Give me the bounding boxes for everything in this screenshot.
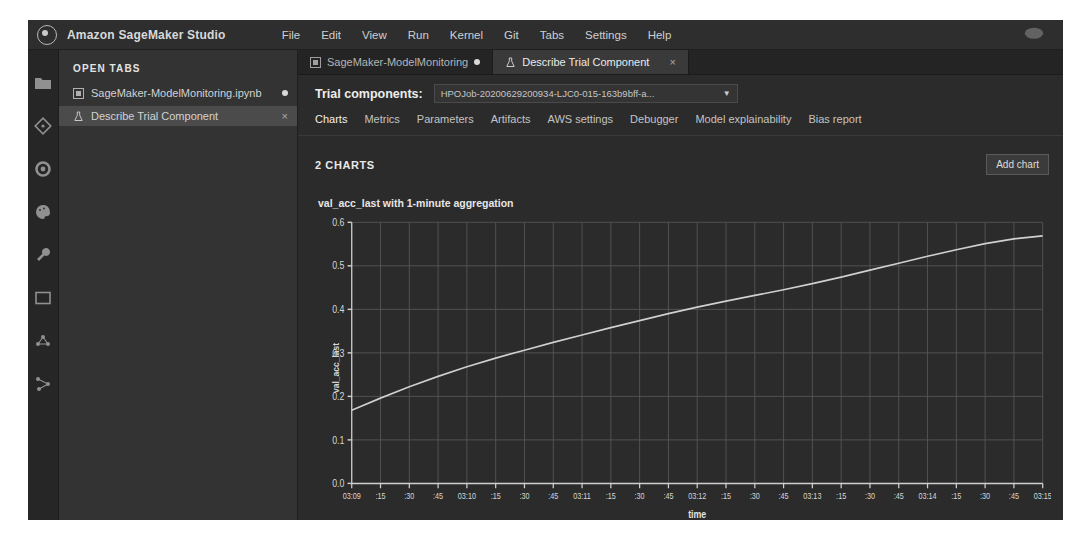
svg-text::15: :15	[375, 492, 386, 502]
chart-y-axis-label: val_acc_last	[331, 342, 341, 392]
tab-model-explainability[interactable]: Model explainability	[695, 113, 791, 129]
svg-text::45: :45	[433, 492, 444, 502]
activity-bar	[28, 50, 59, 520]
menu-item-file[interactable]: File	[282, 29, 301, 41]
svg-text:0.6: 0.6	[332, 216, 344, 228]
flask-icon	[505, 57, 516, 68]
line-chart: 0.00.10.20.30.40.50.603:09:15:30:4503:10…	[304, 215, 1051, 520]
close-icon[interactable]: ×	[669, 56, 675, 68]
menu-item-kernel[interactable]: Kernel	[450, 29, 483, 41]
app-title: Amazon SageMaker Studio	[67, 28, 226, 42]
svg-text::15: :15	[721, 492, 732, 502]
svg-text::15: :15	[836, 492, 847, 502]
svg-text:03:09: 03:09	[343, 492, 362, 502]
flask-icon	[73, 111, 84, 122]
close-icon[interactable]: ×	[282, 110, 288, 122]
svg-text::45: :45	[548, 492, 559, 502]
menu-item-tabs[interactable]: Tabs	[540, 29, 564, 41]
detail-tab-bar: Charts Metrics Parameters Artifacts AWS …	[298, 110, 1063, 136]
tab-metrics[interactable]: Metrics	[364, 113, 399, 129]
doc-tab-label: SageMaker-ModelMonitoring	[327, 56, 468, 68]
sagemaker-studio-window: Amazon SageMaker Studio File Edit View R…	[28, 20, 1063, 520]
notebook-icon	[73, 88, 84, 99]
svg-text::30: :30	[404, 492, 415, 502]
svg-text:03:12: 03:12	[688, 492, 706, 502]
svg-text::45: :45	[894, 492, 905, 502]
tab-artifacts[interactable]: Artifacts	[491, 113, 531, 129]
svg-text:03:14: 03:14	[918, 492, 937, 502]
folder-icon[interactable]	[34, 74, 52, 92]
svg-text:03:15: 03:15	[1034, 492, 1051, 502]
svg-text:0.0: 0.0	[332, 477, 344, 489]
open-tab-label: Describe Trial Component	[91, 110, 275, 122]
chart-title: val_acc_last with 1-minute aggregation	[298, 175, 1063, 209]
add-chart-button[interactable]: Add chart	[986, 154, 1049, 175]
tab-debugger[interactable]: Debugger	[630, 113, 678, 129]
menu-item-edit[interactable]: Edit	[321, 29, 341, 41]
chart-plot-area: val_acc_last 0.00.10.20.30.40.50.603:09:…	[304, 215, 1051, 520]
trial-components-bar: Trial components: HPOJob-20200629200934-…	[298, 75, 1063, 110]
notebook-icon	[310, 57, 321, 68]
pipeline-icon[interactable]	[34, 375, 52, 393]
open-tab-label: SageMaker-ModelMonitoring.ipynb	[91, 87, 275, 99]
cloud-icon[interactable]	[1023, 25, 1045, 43]
trial-components-label: Trial components:	[315, 87, 423, 101]
svg-text::30: :30	[865, 492, 876, 502]
svg-text::15: :15	[951, 492, 962, 502]
open-tabs-panel: OPEN TABS SageMaker-ModelMonitoring.ipyn…	[59, 50, 298, 520]
window-icon[interactable]	[34, 289, 52, 307]
menu-item-help[interactable]: Help	[648, 29, 672, 41]
svg-text:0.1: 0.1	[332, 434, 344, 446]
menu-item-settings[interactable]: Settings	[585, 29, 627, 41]
dirty-indicator-dot	[282, 90, 288, 96]
tab-parameters[interactable]: Parameters	[417, 113, 474, 129]
svg-text:0.5: 0.5	[332, 260, 344, 272]
trial-components-select[interactable]: HPOJob-20200629200934-LJC0-015-163b9bff-…	[434, 84, 738, 103]
charts-count-label: 2 CHARTS	[315, 159, 375, 171]
menu-item-git[interactable]: Git	[504, 29, 519, 41]
svg-text::30: :30	[519, 492, 530, 502]
tab-bias-report[interactable]: Bias report	[808, 113, 861, 129]
open-tab-notebook[interactable]: SageMaker-ModelMonitoring.ipynb	[59, 83, 297, 103]
sagemaker-logo-icon	[37, 25, 57, 45]
svg-text::15: :15	[606, 492, 617, 502]
tab-charts[interactable]: Charts	[315, 113, 347, 129]
svg-text::30: :30	[635, 492, 646, 502]
menu-items: File Edit View Run Kernel Git Tabs Setti…	[282, 29, 672, 41]
svg-text:0.4: 0.4	[332, 303, 345, 315]
main-area: SageMaker-ModelMonitoring Describe Trial…	[298, 50, 1063, 520]
menu-item-view[interactable]: View	[362, 29, 387, 41]
doc-tab-describe-trial-component[interactable]: Describe Trial Component ×	[493, 50, 689, 74]
open-tabs-header: OPEN TABS	[59, 50, 297, 83]
svg-text::30: :30	[750, 492, 761, 502]
wrench-icon[interactable]	[34, 246, 52, 264]
open-tab-describe-trial-component[interactable]: Describe Trial Component ×	[59, 106, 297, 126]
trial-components-value: HPOJob-20200629200934-LJC0-015-163b9bff-…	[441, 88, 655, 99]
running-terminals-icon[interactable]	[34, 160, 52, 178]
menu-item-run[interactable]: Run	[408, 29, 429, 41]
document-tab-bar: SageMaker-ModelMonitoring Describe Trial…	[298, 50, 1063, 75]
experiments-icon[interactable]	[34, 332, 52, 350]
svg-text::45: :45	[779, 492, 790, 502]
chevron-down-icon: ▼	[723, 89, 731, 98]
doc-tab-label: Describe Trial Component	[522, 56, 649, 68]
svg-text::45: :45	[1009, 492, 1020, 502]
palette-icon[interactable]	[34, 203, 52, 221]
charts-header: 2 CHARTS Add chart	[298, 136, 1063, 175]
menu-bar: Amazon SageMaker Studio File Edit View R…	[28, 20, 1063, 50]
svg-text::45: :45	[663, 492, 674, 502]
svg-text:time: time	[688, 508, 707, 520]
svg-text:03:10: 03:10	[458, 492, 477, 502]
svg-text::30: :30	[980, 492, 991, 502]
dirty-indicator-dot	[474, 59, 480, 65]
svg-text:03:11: 03:11	[573, 492, 591, 502]
tab-aws-settings[interactable]: AWS settings	[547, 113, 613, 129]
git-icon[interactable]	[34, 117, 52, 135]
svg-text::15: :15	[491, 492, 502, 502]
doc-tab-sagemaker-modelmonitoring[interactable]: SageMaker-ModelMonitoring	[298, 50, 493, 74]
svg-text:03:13: 03:13	[803, 492, 822, 502]
